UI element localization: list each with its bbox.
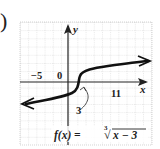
svg-text:f(x) =: f(x) = xyxy=(54,129,81,142)
function-formula: f(x) = 3 √ x − 3 xyxy=(52,124,148,142)
y-axis-label: y xyxy=(71,23,78,35)
graph: y x −5 0 11 3 f(x) = 3 √ x − 3 xyxy=(0,0,160,149)
svg-text:√: √ xyxy=(104,128,111,142)
x-axis-label: x xyxy=(139,83,146,95)
svg-text:x − 3: x − 3 xyxy=(112,129,137,141)
tick-label-eleven: 11 xyxy=(111,88,121,99)
tick-label-neg-five: −5 xyxy=(31,70,42,81)
tick-label-zero: 0 xyxy=(57,70,62,81)
shift-label-three: 3 xyxy=(76,105,81,116)
